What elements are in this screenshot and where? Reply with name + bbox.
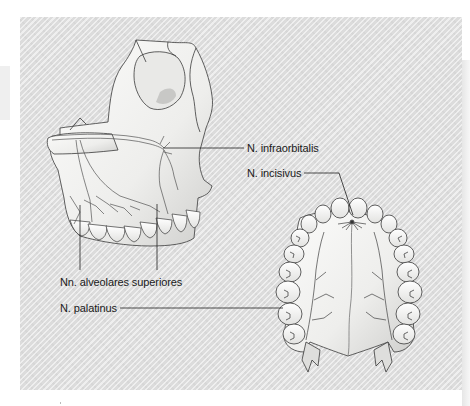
scan-artifact <box>60 402 61 404</box>
zygomatic-process <box>47 133 118 154</box>
left-pterygoid-process <box>302 342 320 372</box>
label-n-incisivus: N. incisivus <box>247 167 301 179</box>
label-nn-alveolares-superiores: Nn. alveolares superiores <box>60 276 182 288</box>
label-n-palatinus: N. palatinus <box>60 302 117 314</box>
figure-illustration <box>0 0 470 406</box>
label-n-infraorbitalis: N. infraorbitalis <box>247 142 319 154</box>
